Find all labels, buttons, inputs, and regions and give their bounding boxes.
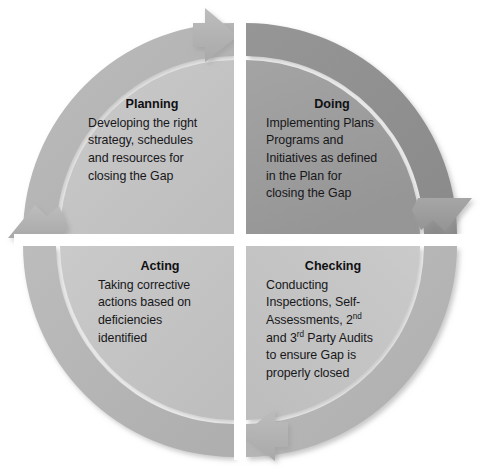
acting-line-3: deficiencies bbox=[98, 312, 222, 330]
doing-body: Implementing Plans Programs and Initiati… bbox=[266, 115, 398, 203]
checking-line-1: Conducting bbox=[266, 277, 400, 295]
checking-line-2: Inspections, Self- bbox=[266, 294, 400, 312]
doing-line-2: Programs and bbox=[266, 132, 398, 150]
arrow-up-icon bbox=[8, 205, 68, 238]
doing-line-1: Implementing Plans bbox=[266, 115, 398, 133]
doing-line-3: Initiatives as defined bbox=[266, 150, 398, 168]
planning-line-1: Developing the right bbox=[88, 115, 216, 133]
checking-line-5: to ensure Gap is bbox=[266, 347, 400, 365]
planning-line-3: and resources for bbox=[88, 150, 216, 168]
horizontal-divider bbox=[14, 234, 466, 246]
cycle-graphic bbox=[0, 0, 480, 469]
acting-title: Acting bbox=[98, 258, 222, 276]
quadrant-label-checking: Checking Conducting Inspections, Self- A… bbox=[266, 258, 400, 383]
checking-body: Conducting Inspections, Self- Assessment… bbox=[266, 277, 400, 383]
doing-line-5: closing the Gap bbox=[266, 185, 398, 203]
planning-line-2: strategy, schedules bbox=[88, 132, 216, 150]
acting-line-4: identified bbox=[98, 330, 222, 348]
checking-line-4: and 3rd Party Audits bbox=[266, 330, 400, 348]
checking-line-6: properly closed bbox=[266, 365, 400, 383]
doing-line-4: in the Plan for bbox=[266, 168, 398, 186]
checking-line-3: Assessments, 2nd bbox=[266, 312, 400, 330]
quadrant-label-acting: Acting Taking corrective actions based o… bbox=[98, 258, 222, 347]
acting-line-1: Taking corrective bbox=[98, 277, 222, 295]
doing-title: Doing bbox=[266, 96, 398, 114]
planning-title: Planning bbox=[88, 96, 216, 114]
planning-body: Developing the right strategy, schedules… bbox=[88, 115, 216, 185]
acting-line-2: actions based on bbox=[98, 294, 222, 312]
pdca-cycle-diagram: Planning Developing the right strategy, … bbox=[0, 0, 480, 469]
checking-title: Checking bbox=[266, 258, 400, 276]
quadrant-label-doing: Doing Implementing Plans Programs and In… bbox=[266, 96, 398, 203]
quadrant-label-planning: Planning Developing the right strategy, … bbox=[88, 96, 216, 185]
planning-line-4: closing the Gap bbox=[88, 168, 216, 186]
arrow-down-icon bbox=[412, 198, 472, 231]
acting-body: Taking corrective actions based on defic… bbox=[98, 277, 222, 347]
